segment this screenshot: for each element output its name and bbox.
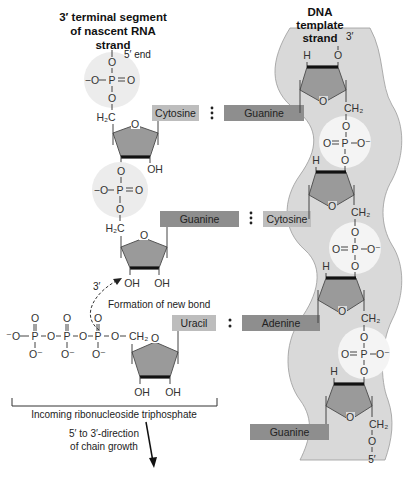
- svg-text:O: O: [63, 312, 71, 324]
- svg-text:OH: OH: [154, 277, 170, 289]
- svg-text:O: O: [319, 95, 327, 107]
- svg-text:O: O: [47, 330, 55, 342]
- svg-text:H: H: [330, 365, 338, 377]
- svg-text:O: O: [131, 118, 139, 130]
- svg-text:P: P: [360, 348, 367, 360]
- svg-text:O: O: [342, 120, 350, 132]
- base-pair-3: Uracil Adenine: [172, 315, 320, 331]
- incoming-triphosphate: O O O ⁻O P O P O P O CH₂ O⁻ O⁻ O⁻: [6, 312, 148, 360]
- base-pair-4: Guanine: [250, 424, 329, 440]
- svg-text:OH: OH: [124, 277, 140, 289]
- incoming-ntp-label: Incoming ribonucleoside triphosphate: [31, 409, 197, 420]
- svg-text:O: O: [338, 305, 346, 317]
- hydrogen-bond-dots: [250, 212, 253, 225]
- rna-title-line-2: of nascent RNA: [70, 25, 156, 37]
- svg-text:O: O: [323, 137, 331, 149]
- svg-text:O: O: [94, 312, 102, 324]
- svg-text:O: O: [351, 260, 359, 272]
- svg-text:O: O: [108, 56, 116, 68]
- svg-text:P: P: [94, 330, 101, 342]
- svg-text:O: O: [346, 411, 354, 423]
- svg-text:P: P: [116, 184, 123, 196]
- rna-phosphate-2: O −O P O O: [92, 162, 148, 221]
- svg-text:Cytosine: Cytosine: [267, 213, 308, 225]
- rna-title-line-1: 3′ terminal segment: [59, 11, 167, 23]
- svg-text:O: O: [127, 74, 135, 86]
- svg-text:O: O: [140, 229, 148, 241]
- svg-text:O: O: [360, 365, 368, 377]
- base-pair-2: Guanine Cytosine: [160, 211, 311, 227]
- rna-phosphate-1: 5′ end O −O P O O: [84, 49, 151, 110]
- svg-text:O: O: [79, 330, 87, 342]
- chain-growth-direction: 5′ to 3′-direction of chain growth: [69, 422, 157, 468]
- svg-text:O: O: [31, 312, 39, 324]
- svg-text:P: P: [341, 137, 348, 149]
- svg-text:−O: −O: [94, 184, 108, 196]
- svg-text:−O: −O: [85, 74, 99, 86]
- svg-text:O: O: [135, 184, 143, 196]
- svg-text:CH₂: CH₂: [129, 330, 148, 342]
- dna-3prime-end: 3′: [346, 31, 354, 42]
- dna-title-line-1: DNA: [308, 6, 333, 18]
- svg-text:O: O: [116, 203, 124, 215]
- down-arrow-icon: [149, 457, 157, 468]
- base-pair-1: Cytosine Guanine: [152, 105, 304, 121]
- dna-title-line-3: strand: [302, 32, 337, 44]
- svg-text:O⁻: O⁻: [376, 348, 390, 360]
- svg-text:Guanine: Guanine: [244, 107, 284, 119]
- svg-text:O⁻: O⁻: [92, 348, 106, 360]
- svg-text:O: O: [341, 348, 349, 360]
- svg-text:P: P: [63, 330, 70, 342]
- svg-text:Cytosine: Cytosine: [155, 107, 196, 119]
- svg-text:Guanine: Guanine: [270, 426, 310, 438]
- svg-text:O: O: [351, 226, 359, 238]
- svg-text:P: P: [31, 330, 38, 342]
- svg-text:O: O: [328, 200, 336, 212]
- growth-line-1: 5′ to 3′-direction: [69, 428, 139, 439]
- hydrogen-bond-dots: [229, 319, 232, 328]
- svg-text:Uracil: Uracil: [181, 317, 208, 329]
- svg-text:O⁻: O⁻: [61, 348, 75, 360]
- svg-text:CH₂: CH₂: [344, 102, 363, 114]
- rna-strand-title: 3′ terminal segment of nascent RNA stran…: [59, 11, 167, 51]
- svg-text:P: P: [351, 243, 358, 255]
- rna-synthesis-diagram: 3′ terminal segment of nascent RNA stran…: [0, 0, 408, 481]
- svg-text:O: O: [334, 49, 342, 61]
- svg-text:O⁻: O⁻: [357, 137, 371, 149]
- svg-text:H₂C: H₂C: [105, 222, 125, 234]
- svg-text:OH: OH: [165, 386, 181, 398]
- svg-text:⁻O: ⁻O: [6, 330, 20, 342]
- formation-new-bond-label: Formation of new bond: [108, 299, 210, 310]
- dna-5prime-end: 5′: [368, 454, 376, 465]
- svg-text:H₂C: H₂C: [96, 111, 116, 123]
- svg-text:H: H: [303, 49, 311, 61]
- svg-text:O: O: [368, 435, 376, 447]
- incoming-ntp-bracket: Incoming ribonucleoside triphosphate: [12, 398, 217, 420]
- svg-text:O: O: [341, 154, 349, 166]
- svg-text:O: O: [151, 332, 159, 344]
- growth-line-2: of chain growth: [70, 441, 138, 452]
- svg-text:O⁻: O⁻: [367, 243, 381, 255]
- svg-text:CH₂: CH₂: [369, 418, 388, 430]
- svg-text:CH₂: CH₂: [361, 312, 380, 324]
- svg-text:Adenine: Adenine: [262, 317, 301, 329]
- svg-text:O: O: [360, 331, 368, 343]
- svg-text:Guanine: Guanine: [180, 213, 220, 225]
- svg-text:O: O: [332, 243, 340, 255]
- svg-text:O⁻: O⁻: [29, 348, 43, 360]
- svg-text:CH₂: CH₂: [351, 206, 370, 218]
- svg-text:H: H: [322, 260, 330, 272]
- svg-text:OH: OH: [134, 386, 150, 398]
- three-prime-label: 3′: [93, 281, 101, 292]
- svg-text:OH: OH: [147, 163, 163, 175]
- svg-text:H: H: [312, 154, 320, 166]
- rna-5prime-end-label: 5′ end: [124, 49, 151, 60]
- dna-title-line-2: template: [296, 19, 343, 31]
- svg-text:O: O: [111, 330, 119, 342]
- hydrogen-bond-dots: [211, 107, 214, 120]
- svg-text:P: P: [108, 74, 115, 86]
- svg-text:O: O: [117, 165, 125, 177]
- svg-text:O: O: [108, 92, 116, 104]
